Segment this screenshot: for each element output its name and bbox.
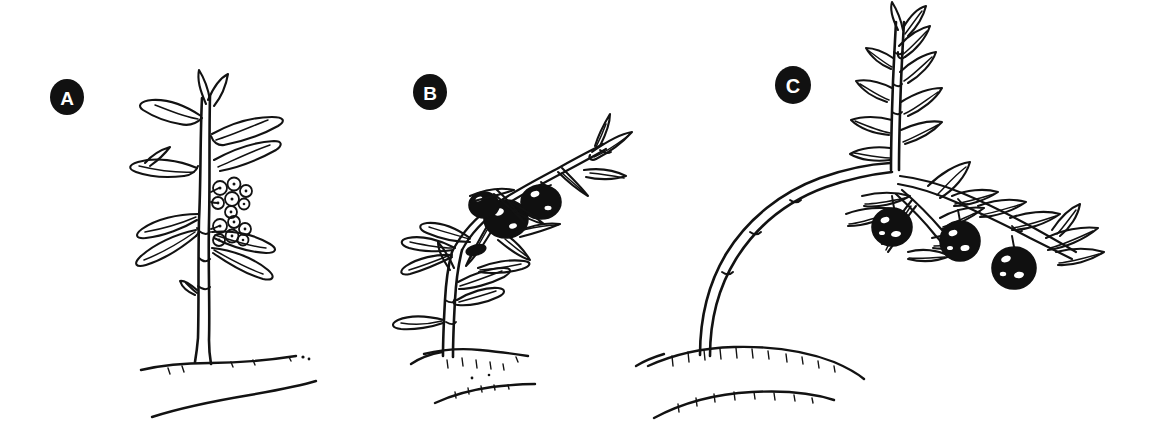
plant-growth-stages-illustration: A <box>0 0 1169 444</box>
panel-label-b-text: B <box>423 83 437 104</box>
panel-label-a-text: A <box>60 88 74 109</box>
figure-root: A <box>0 0 1169 444</box>
fruit-b-2 <box>521 185 561 219</box>
panel-label-b: B <box>413 74 447 110</box>
panel-label-c: C <box>775 66 811 104</box>
figure-background <box>0 0 1169 444</box>
panel-label-a: A <box>50 79 84 115</box>
panel-label-c-text: C <box>786 75 800 97</box>
